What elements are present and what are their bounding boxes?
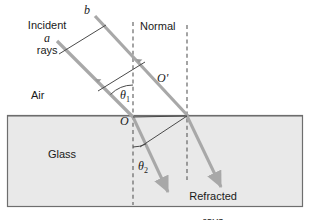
incident-rays-line1: Incident	[28, 19, 67, 31]
refracted-rays-line1: Refracted	[189, 190, 237, 202]
glass-label: Glass	[48, 148, 76, 161]
air-label: Air	[31, 89, 44, 102]
refracted-rays-label: Refracted rays	[168, 177, 246, 220]
ray-b-label: b	[84, 4, 90, 17]
point-o-prime-label: O'	[157, 72, 168, 85]
normal-label: Normal	[140, 20, 175, 33]
incident-rays-label: Incident rays	[8, 6, 74, 69]
incident-rays-line2: rays	[37, 44, 58, 56]
theta1-label: θ1	[108, 76, 130, 119]
ray-a-label: a	[44, 32, 50, 45]
theta2-subscript: 2	[144, 166, 148, 175]
theta2-label: θ2	[126, 147, 148, 190]
refracted-rays-line2: rays	[203, 215, 224, 221]
theta1-subscript: 1	[126, 95, 130, 104]
refraction-diagram: Incident rays a b Normal Air Glass Refra…	[0, 0, 311, 220]
